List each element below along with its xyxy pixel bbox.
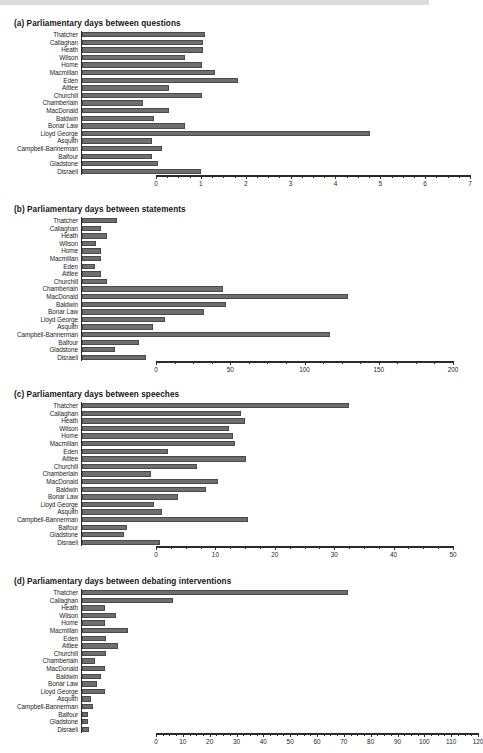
- bar-row: Gladstone: [0, 718, 429, 726]
- bar-row: Macmillan: [0, 627, 429, 635]
- bar: [82, 40, 203, 45]
- bar-row: Chamberlain: [0, 657, 429, 665]
- bar-track: [81, 323, 378, 331]
- bar-track: [81, 331, 378, 339]
- bar: [82, 613, 116, 618]
- bar: [82, 696, 91, 701]
- category-label: Heath: [0, 604, 81, 612]
- bar-row: Home: [0, 432, 429, 440]
- category-label: Baldwin: [0, 115, 81, 123]
- bar-row: Attlee: [0, 84, 429, 92]
- category-label: Macmillan: [0, 69, 81, 77]
- bar-track: [81, 270, 378, 278]
- bar-row: Callaghan: [0, 225, 429, 233]
- bar-track: [81, 153, 395, 161]
- bar-track: [81, 516, 378, 524]
- axis-major-tick: [275, 546, 276, 550]
- bar-track: [81, 635, 403, 643]
- category-label: Eden: [0, 77, 81, 85]
- bar-row: Home: [0, 61, 429, 69]
- axis-minor-tick: [438, 546, 439, 548]
- axis-tick-label: 30: [233, 738, 240, 745]
- bar: [82, 479, 218, 484]
- bar-row: Bonar Law: [0, 493, 429, 501]
- bar: [82, 605, 105, 610]
- category-label: Chamberlain: [0, 470, 81, 478]
- category-label: Baldwin: [0, 673, 81, 681]
- bar-row: Macmillan: [0, 255, 429, 263]
- category-label: Callaghan: [0, 39, 81, 47]
- axis-major-tick: [380, 175, 381, 179]
- bar-row: Lloyd George: [0, 688, 429, 696]
- bar: [82, 100, 143, 105]
- axis-minor-tick: [408, 546, 409, 548]
- bar-row: Asquith: [0, 137, 429, 145]
- bar-row: Baldwin: [0, 115, 429, 123]
- axis-minor-tick: [212, 361, 213, 363]
- bar: [82, 418, 245, 423]
- category-label: Lloyd George: [0, 316, 81, 324]
- axis-minor-tick: [257, 733, 258, 735]
- bar-track: [81, 440, 378, 448]
- axis-tick-label: 100: [419, 738, 430, 745]
- chart-title: (b) Parliamentary days between statement…: [14, 205, 429, 214]
- bar: [82, 433, 233, 438]
- bar: [82, 332, 330, 337]
- axis-minor-tick: [257, 175, 258, 177]
- category-label: Home: [0, 61, 81, 69]
- axis-major-tick: [156, 361, 157, 365]
- plot-area: ThatcherCallaghanHeathWilsonHomeMacmilla…: [0, 31, 429, 175]
- bar-track: [81, 726, 403, 734]
- axis-minor-tick: [404, 733, 405, 735]
- bar-row: Gladstone: [0, 160, 429, 168]
- bar-track: [81, 145, 395, 153]
- axis-minor-tick: [270, 733, 271, 735]
- category-label: Disraeli: [0, 354, 81, 362]
- chart-panel-d: (d) Parliamentary days between debating …: [0, 577, 429, 749]
- bar-row: Attlee: [0, 455, 429, 463]
- bar: [82, 47, 203, 52]
- bar: [82, 256, 101, 261]
- bar-row: Thatcher: [0, 31, 429, 39]
- axis-major-tick: [237, 733, 238, 737]
- bar-track: [81, 339, 378, 347]
- bar-track: [81, 122, 395, 130]
- axis-minor-tick: [347, 175, 348, 177]
- bar-track: [81, 160, 395, 168]
- bar-track: [81, 99, 395, 107]
- category-label: MacDonald: [0, 478, 81, 486]
- axis-tick-label: 200: [448, 366, 459, 373]
- chart-panel-b: (b) Parliamentary days between statement…: [0, 205, 429, 377]
- axis-tick-label: 10: [179, 738, 186, 745]
- bar: [82, 78, 238, 83]
- category-label: Bonar Law: [0, 493, 81, 501]
- axis-major-tick: [246, 175, 247, 179]
- category-label: Campbell-Bannerman: [0, 331, 81, 339]
- axis-minor-tick: [391, 733, 392, 735]
- axis-minor-tick: [313, 175, 314, 177]
- bar-track: [81, 301, 378, 309]
- axis-minor-tick: [431, 733, 432, 735]
- axis-minor-tick: [230, 546, 231, 548]
- category-label: Bonar Law: [0, 122, 81, 130]
- axis-minor-tick: [392, 175, 393, 177]
- bar-track: [81, 463, 378, 471]
- category-label: Gladstone: [0, 718, 81, 726]
- chart-title: (c) Parliamentary days between speeches: [14, 390, 429, 399]
- bar: [82, 264, 95, 269]
- category-label: Wilson: [0, 425, 81, 433]
- axis-tick-label: 4: [334, 180, 338, 187]
- category-label: Chamberlain: [0, 285, 81, 293]
- category-label: Heath: [0, 232, 81, 240]
- bar-row: Heath: [0, 417, 429, 425]
- axis-minor-tick: [358, 175, 359, 177]
- axis-tick-label: 0: [154, 180, 158, 187]
- bar-track: [81, 425, 378, 433]
- bar: [82, 487, 206, 492]
- bar: [82, 502, 154, 507]
- bar: [82, 494, 178, 499]
- bar-row: Eden: [0, 263, 429, 271]
- axis-minor-tick: [351, 733, 352, 735]
- bar: [82, 449, 168, 454]
- axis-tick-label: 120: [473, 738, 483, 745]
